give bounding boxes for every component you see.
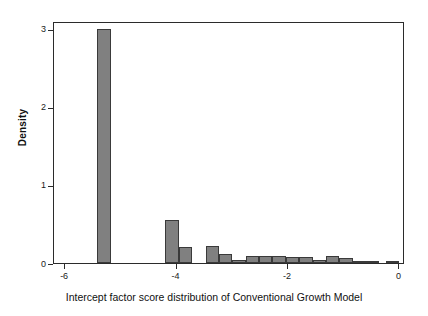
x-axis-title: Intercept factor score distribution of C… [0, 291, 428, 303]
y-tick-mark [48, 108, 53, 109]
histogram-bar [219, 254, 232, 263]
y-tick-mark [48, 264, 53, 265]
x-tick-mark [398, 264, 399, 269]
histogram-bar [386, 261, 399, 263]
histogram-bar [313, 260, 326, 263]
histogram-bar [366, 261, 379, 263]
histogram-bar [326, 256, 339, 263]
y-tick-mark [48, 186, 53, 187]
y-tick-label: 3 [16, 25, 46, 34]
x-tick-label: 0 [383, 271, 413, 281]
y-tick-mark [48, 30, 53, 31]
plot-area [54, 23, 403, 263]
histogram-bar [165, 220, 178, 263]
histogram-bar [339, 258, 352, 263]
histogram-bar [353, 261, 366, 263]
x-tick-mark [287, 264, 288, 269]
histogram-figure: 0123 -6-4-20 Density Intercept factor sc… [0, 0, 428, 316]
histogram-bar [97, 29, 110, 263]
histogram-bar [272, 256, 285, 263]
y-axis-title: Density [17, 58, 28, 198]
x-tick-mark [176, 264, 177, 269]
histogram-bar [299, 257, 312, 263]
x-tick-mark [64, 264, 65, 269]
histogram-bar [179, 247, 192, 263]
x-tick-label: -6 [49, 271, 79, 281]
plot-frame [53, 22, 404, 264]
histogram-bar [259, 256, 272, 263]
x-tick-label: -4 [161, 271, 191, 281]
x-tick-label: -2 [272, 271, 302, 281]
y-tick-label: 0 [16, 260, 46, 269]
histogram-bar [246, 256, 259, 263]
histogram-bar [286, 257, 299, 263]
histogram-bar [232, 260, 245, 263]
histogram-bar [206, 246, 219, 263]
